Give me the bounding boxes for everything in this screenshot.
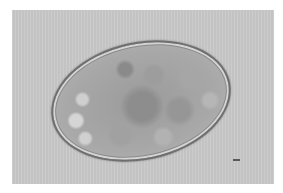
egg-specimen <box>40 24 243 177</box>
micrograph-photo <box>12 10 274 184</box>
scale-bar-mark <box>233 159 240 161</box>
